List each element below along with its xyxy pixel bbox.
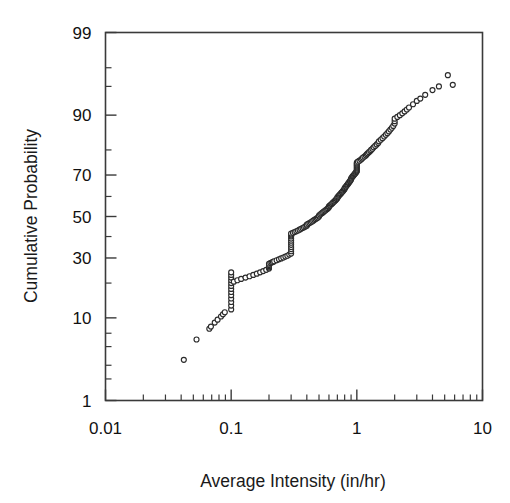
x-axis-title: Average Intensity (in/hr): [200, 471, 385, 491]
y-tick-label: 30: [73, 249, 92, 268]
data-point: [418, 96, 423, 101]
data-point: [194, 337, 199, 342]
y-tick-label: 1: [82, 392, 91, 411]
data-point: [450, 82, 455, 87]
data-point: [436, 84, 441, 89]
x-tick-label: 0.1: [219, 419, 243, 438]
data-point: [423, 92, 428, 97]
y-tick-label: 10: [73, 309, 92, 328]
y-tick-label: 99: [73, 24, 92, 43]
data-point: [229, 270, 234, 275]
y-tick-label: 90: [73, 106, 92, 125]
y-tick-label: 50: [73, 208, 92, 227]
y-tick-label: 70: [73, 166, 92, 185]
x-tick-label: 0.01: [89, 419, 122, 438]
y-axis-title: Cumulative Probability: [21, 129, 41, 303]
lognormal-probability-plot: 0.010.1110 1103050709099 Average Intensi…: [0, 0, 510, 503]
data-point: [181, 357, 186, 362]
data-point: [445, 73, 450, 78]
data-point: [222, 310, 227, 315]
x-tick-label: 10: [473, 419, 492, 438]
data-point: [430, 88, 435, 93]
probability-plot-figure: 0.010.1110 1103050709099 Average Intensi…: [0, 0, 510, 503]
x-tick-label: 1: [352, 419, 361, 438]
